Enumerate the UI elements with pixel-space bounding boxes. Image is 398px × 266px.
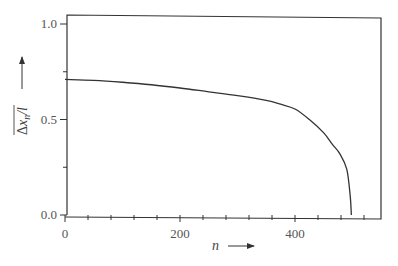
- y-tick-label: 0.5: [41, 112, 57, 127]
- y-tick-label: 0.0: [41, 207, 57, 222]
- axis-ticks: [60, 24, 364, 222]
- plot-border: [65, 15, 381, 219]
- line-chart: 02004000.00.51.0 n Δxn/l: [0, 0, 398, 266]
- x-tick-label: 400: [285, 226, 305, 241]
- y-axis-label: Δxn/l: [14, 57, 32, 135]
- y-label-tail: /l: [15, 107, 30, 116]
- x-tick-label: 200: [170, 226, 190, 241]
- tick-labels: 02004000.00.51.0: [41, 16, 305, 241]
- y-label-delta: Δ: [15, 126, 30, 135]
- data-line: [65, 79, 351, 215]
- x-axis-label: n: [212, 238, 254, 253]
- svg-text:Δxn/l: Δxn/l: [15, 107, 32, 135]
- x-tick-label: 0: [62, 226, 69, 241]
- x-axis-label-text: n: [212, 238, 219, 253]
- plot-frame: [65, 15, 381, 219]
- y-tick-label: 1.0: [41, 16, 57, 31]
